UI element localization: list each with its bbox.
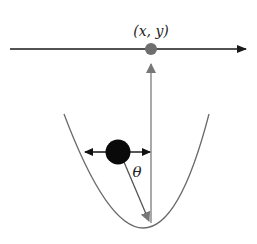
ball	[106, 140, 131, 165]
diagram-canvas: (x, y) θ	[0, 0, 257, 244]
point-label: (x, y)	[133, 23, 169, 39]
angle-label-theta: θ	[132, 163, 141, 181]
pivot-point-dot	[145, 43, 157, 55]
